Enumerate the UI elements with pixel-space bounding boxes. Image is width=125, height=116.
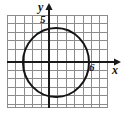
x-tick-label-6: 6 [89,62,95,73]
coordinate-grid-figure: y x 5 6 [0,0,125,116]
y-axis-arrow-icon [45,3,52,10]
graph-canvas [0,0,125,116]
y-tick-label-5: 5 [40,14,46,25]
x-axis-label: x [112,64,118,76]
y-axis-label: y [38,1,43,13]
y-axis [45,3,52,108]
